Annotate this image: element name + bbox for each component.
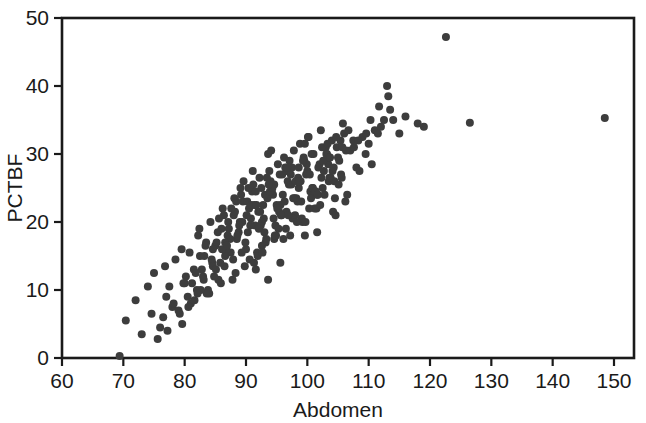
data-point (275, 225, 283, 233)
data-point (317, 126, 325, 134)
plot-frame (62, 18, 634, 358)
y-tick-label: 40 (26, 74, 49, 97)
data-point (283, 164, 291, 172)
data-point (188, 279, 196, 287)
data-point (264, 276, 272, 284)
data-point (362, 150, 370, 158)
data-point (295, 164, 303, 172)
data-point (350, 143, 358, 151)
data-point (332, 211, 340, 219)
data-point (223, 242, 231, 250)
data-point (233, 232, 241, 240)
data-point (263, 174, 271, 182)
data-point (202, 242, 210, 250)
data-point (200, 276, 208, 284)
data-point (338, 143, 346, 151)
data-point (338, 174, 346, 182)
data-point (313, 228, 321, 236)
data-point (206, 218, 214, 226)
data-point (229, 255, 237, 263)
data-point (344, 126, 352, 134)
data-point (383, 82, 391, 90)
data-point (339, 119, 347, 127)
data-point (273, 204, 281, 212)
data-point (230, 194, 238, 202)
data-point (186, 249, 194, 257)
data-point (260, 215, 268, 223)
data-point (178, 320, 186, 328)
data-point (156, 323, 164, 331)
y-tick-label: 10 (26, 278, 49, 301)
data-point (395, 130, 403, 138)
y-axis: 01020304050 (26, 6, 62, 369)
data-point (225, 225, 233, 233)
data-point (238, 249, 246, 257)
data-point (384, 92, 392, 100)
data-point (236, 184, 244, 192)
data-point (249, 167, 257, 175)
data-point (132, 296, 140, 304)
data-point (301, 140, 309, 148)
data-point (190, 296, 198, 304)
data-point-group (116, 33, 609, 360)
data-point (259, 249, 267, 257)
data-point (271, 232, 279, 240)
data-point (317, 174, 325, 182)
data-point (279, 235, 287, 243)
data-point (442, 33, 450, 41)
data-point (331, 194, 339, 202)
data-point (194, 289, 202, 297)
data-point (290, 147, 298, 155)
data-point (367, 116, 375, 124)
data-point (227, 204, 235, 212)
data-point (116, 352, 124, 360)
data-point (246, 221, 254, 229)
scatter-plot-figure: 6070809010011012013014015001020304050Abd… (0, 0, 646, 423)
x-axis-title: Abdomen (293, 398, 383, 421)
data-point (466, 119, 474, 127)
data-point (240, 177, 248, 185)
data-point (282, 225, 290, 233)
data-point (295, 184, 303, 192)
data-point (244, 184, 252, 192)
data-point (213, 238, 221, 246)
data-point (150, 269, 158, 277)
data-point (320, 167, 328, 175)
data-point (377, 123, 385, 131)
data-point (161, 262, 169, 270)
data-point (380, 116, 388, 124)
data-point (286, 157, 294, 165)
x-tick-label: 140 (535, 369, 570, 392)
data-point (256, 208, 264, 216)
data-point (200, 252, 208, 260)
data-point (243, 211, 251, 219)
data-point (176, 310, 184, 318)
data-point (178, 245, 186, 253)
data-point (326, 153, 334, 161)
data-point (389, 116, 397, 124)
data-point (265, 181, 273, 189)
data-point (224, 218, 232, 226)
data-point (354, 136, 362, 144)
data-point (324, 140, 332, 148)
data-point (144, 283, 152, 291)
data-point (301, 232, 309, 240)
data-point (278, 170, 286, 178)
data-point (215, 215, 223, 223)
data-point (165, 283, 173, 291)
x-tick-label: 120 (412, 369, 447, 392)
data-point (284, 211, 292, 219)
data-point (252, 266, 260, 274)
data-point (270, 215, 278, 223)
data-point (212, 266, 220, 274)
data-point (365, 140, 373, 148)
data-point (182, 272, 190, 280)
data-point (252, 201, 260, 209)
data-point (255, 174, 263, 182)
data-point (330, 164, 338, 172)
data-point (208, 255, 216, 263)
data-point (274, 160, 282, 168)
data-point (355, 167, 363, 175)
data-point (258, 242, 266, 250)
data-point (192, 269, 200, 277)
